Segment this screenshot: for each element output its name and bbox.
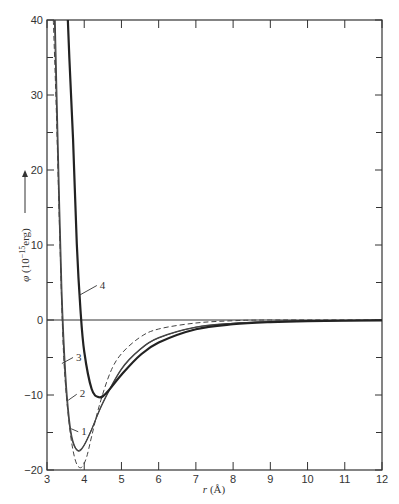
x-tick-label: 9	[267, 473, 273, 485]
curve-1	[55, 20, 382, 451]
y-tick-label: −20	[24, 464, 43, 476]
y-axis-arrow-icon	[22, 170, 28, 213]
x-tick-label: 6	[156, 473, 162, 485]
svg-text:φ (10−15erg): φ (10−15erg)	[18, 228, 33, 282]
x-axis-ticks: 3456789101112	[44, 20, 388, 485]
y-axis-unit: (10	[19, 258, 32, 276]
x-tick-label: 8	[230, 473, 236, 485]
x-tick-label: 3	[44, 473, 50, 485]
curve-4	[68, 20, 382, 397]
potential-energy-chart: −20−10010203040 3456789101112 1234 r (Å)…	[0, 0, 399, 504]
x-tick-label: 5	[118, 473, 124, 485]
x-tick-label: 7	[193, 473, 199, 485]
y-tick-label: 40	[31, 14, 43, 26]
x-axis-title: r (Å)	[203, 483, 226, 496]
x-axis-unit: (Å)	[207, 483, 225, 496]
curve-label-3: 3	[76, 351, 82, 363]
x-tick-label: 12	[376, 473, 388, 485]
curve-2	[54, 20, 382, 451]
y-tick-label: −10	[24, 389, 43, 401]
curves	[53, 20, 382, 468]
y-axis-ticks: −20−10010203040	[24, 14, 382, 476]
y-tick-label: 10	[31, 239, 43, 251]
plot-frame	[47, 20, 382, 470]
x-tick-label: 11	[339, 473, 350, 485]
y-tick-label: 0	[37, 314, 43, 326]
x-tick-label: 4	[81, 473, 87, 485]
y-tick-label: 30	[31, 89, 43, 101]
y-tick-label: 20	[31, 164, 43, 176]
curve-label-1: 1	[81, 425, 87, 437]
y-axis-title: φ (10−15erg)	[18, 170, 33, 282]
x-tick-label: 10	[301, 473, 313, 485]
curve-label-4: 4	[100, 279, 106, 291]
curve-label-2: 2	[80, 387, 86, 399]
curve-3	[53, 20, 382, 468]
